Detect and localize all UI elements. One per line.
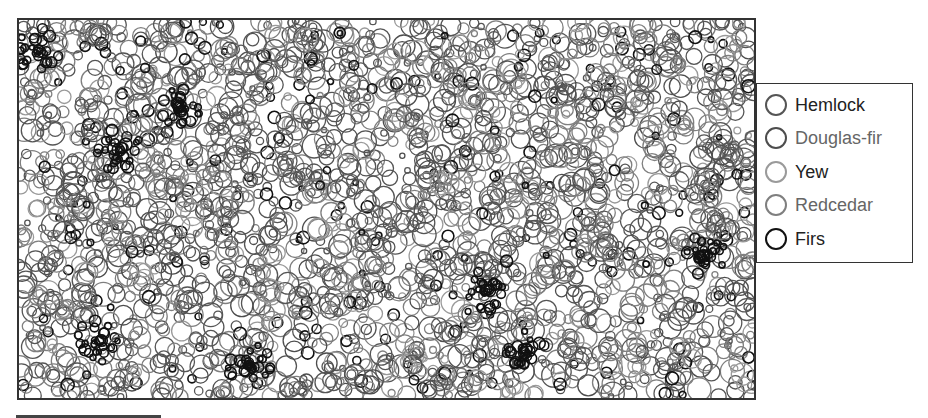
legend-item-redcedar: Redcedar <box>765 192 873 218</box>
tree-circle <box>328 79 334 85</box>
tree-circle <box>621 209 644 232</box>
tree-circle <box>471 31 477 37</box>
tree-circle <box>29 174 49 194</box>
tree-circle <box>651 257 662 268</box>
tree-circle <box>109 187 122 200</box>
tree-circle <box>688 378 711 398</box>
tree-circle <box>253 87 268 102</box>
tree-circle <box>165 209 173 217</box>
tree-circle <box>442 230 454 242</box>
tree-circle <box>25 220 30 225</box>
tree-circle <box>530 20 540 28</box>
tree-circle <box>676 209 683 216</box>
tree-circle <box>485 47 495 57</box>
tree-circle <box>19 181 28 194</box>
tree-circle <box>597 125 605 133</box>
legend-label: Redcedar <box>795 194 873 216</box>
tree-circle <box>175 381 183 389</box>
tree-circle <box>19 260 25 271</box>
tree-circle <box>556 285 568 297</box>
tree-circle <box>458 23 469 34</box>
tree-circle <box>683 20 694 29</box>
tree-circle <box>587 309 610 332</box>
tree-circle <box>347 46 353 52</box>
tree-circle <box>555 105 579 129</box>
tree-circle <box>570 306 586 322</box>
tree-circle <box>388 390 395 397</box>
tree-circle <box>98 76 112 90</box>
tree-circle <box>136 199 157 220</box>
tree-circle <box>147 229 163 245</box>
tree-circle <box>28 201 44 217</box>
tree-circle <box>465 309 471 315</box>
tree-circles-layer <box>19 20 754 398</box>
tree-circle <box>656 230 663 237</box>
tree-circle <box>256 137 263 144</box>
tree-circle <box>368 306 383 321</box>
tree-circle <box>152 309 164 321</box>
tree-circle <box>58 90 71 103</box>
legend-item-firs: Firs <box>765 226 825 252</box>
tree-circle <box>725 308 736 319</box>
tree-circle <box>259 226 278 245</box>
tree-circle <box>172 321 192 341</box>
tree-circle <box>711 389 726 398</box>
tree-circle <box>182 344 195 357</box>
tree-circle <box>195 387 203 395</box>
tree-circle <box>108 286 125 303</box>
tree-circle <box>299 260 318 279</box>
circle-icon <box>765 127 787 149</box>
tree-circle <box>203 330 219 346</box>
legend-item-hemlock: Hemlock <box>765 92 865 118</box>
tree-circle <box>646 380 666 398</box>
legend-label: Hemlock <box>795 94 865 116</box>
tree-circle <box>735 46 754 65</box>
tree-circle <box>518 156 535 173</box>
tree-circle <box>668 362 691 385</box>
tree-circle <box>108 304 114 310</box>
circle-icon <box>765 228 787 250</box>
tree-circle <box>666 98 680 112</box>
tree-circle <box>129 175 144 190</box>
tree-circle <box>117 394 123 398</box>
tree-circle <box>166 286 184 304</box>
tree-circle <box>494 155 501 162</box>
tree-circle <box>608 190 621 203</box>
circle-icon <box>765 161 787 183</box>
tree-circle <box>555 59 578 82</box>
tree-circle <box>483 74 498 89</box>
tree-circle <box>482 194 493 205</box>
tree-circle <box>734 127 741 134</box>
tree-circle <box>366 176 381 191</box>
tree-circle <box>88 60 103 75</box>
tree-circle <box>393 35 415 57</box>
tree-circle <box>306 255 324 273</box>
tree-circle <box>40 315 48 323</box>
tree-circle <box>719 311 742 334</box>
tree-circle <box>370 20 376 25</box>
tree-circle <box>106 124 118 136</box>
tree-circle <box>246 33 258 45</box>
tree-circle <box>706 305 713 312</box>
legend-label: Firs <box>795 228 825 250</box>
tree-circle <box>353 357 361 365</box>
tree-circle <box>444 212 459 227</box>
tree-circle <box>640 375 649 384</box>
tree-circle <box>76 240 82 246</box>
tree-circle <box>365 217 372 224</box>
tree-circle <box>747 331 754 338</box>
legend-item-yew: Yew <box>765 159 828 185</box>
tree-circle <box>653 207 666 220</box>
tree-circle <box>382 376 403 397</box>
tree-circle <box>630 218 652 240</box>
circle-icon <box>765 194 787 216</box>
tree-circle <box>406 196 419 209</box>
tree-circle <box>492 57 502 67</box>
legend-item-douglas-fir: Douglas-fir <box>765 125 882 151</box>
tree-circle <box>441 290 464 313</box>
tree-circle <box>542 20 563 38</box>
circle-icon <box>765 94 787 116</box>
tree-circle <box>332 224 351 243</box>
tree-circle <box>347 370 356 379</box>
tree-circle <box>85 349 94 358</box>
